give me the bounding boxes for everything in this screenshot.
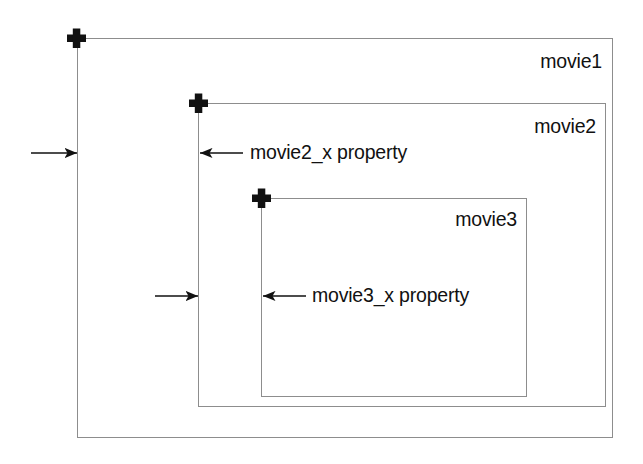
diagram-canvas: movie1 movie2 movie3 (0, 0, 643, 464)
movie2-x-property-label: movie2_x property (250, 143, 407, 163)
diagram-vector-layer (0, 0, 643, 464)
movie3-registration-cross-icon (252, 189, 271, 209)
movie2-registration-cross-icon (189, 94, 208, 114)
movie1-registration-cross-icon (67, 29, 86, 49)
movie3-x-property-label: movie3_x property (312, 286, 469, 306)
